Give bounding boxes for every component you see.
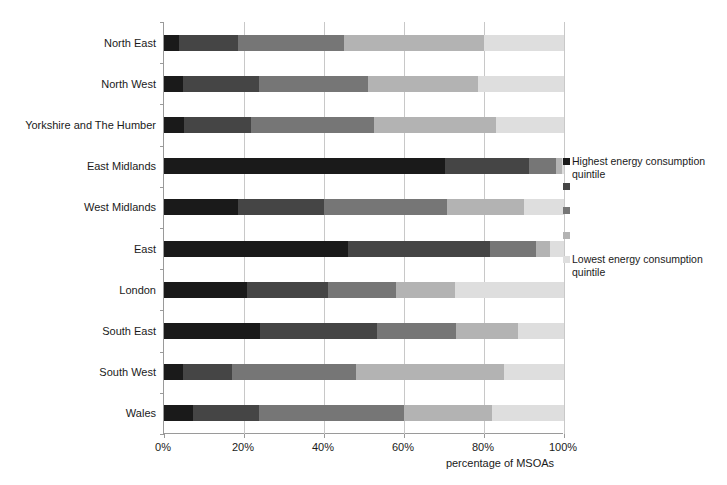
bar-segment xyxy=(328,282,396,298)
bar-segment xyxy=(164,241,348,257)
y-axis-category-label: Yorkshire and The Humber xyxy=(25,119,156,131)
bar-segment xyxy=(247,282,328,298)
bar-segment xyxy=(447,199,524,215)
bar-segment xyxy=(455,282,564,298)
bar-segment xyxy=(550,241,564,257)
y-axis-tick xyxy=(160,310,164,311)
stacked-bar-chart: North EastNorth WestYorkshire and The Hu… xyxy=(0,0,727,485)
y-axis-category-label: East xyxy=(134,243,156,255)
bar-segment xyxy=(164,282,247,298)
bar-segment xyxy=(238,35,344,51)
y-axis-tick xyxy=(160,352,164,353)
bar-segment xyxy=(377,323,456,339)
y-axis-tick xyxy=(160,63,164,64)
bar-segment xyxy=(496,117,564,133)
bar-segment xyxy=(356,364,504,380)
x-axis-tick-label: 60% xyxy=(373,441,433,453)
x-axis-tick xyxy=(484,434,485,438)
bar-segment xyxy=(164,323,260,339)
y-axis-tick xyxy=(160,434,164,435)
bar-row xyxy=(164,35,564,51)
bar-row xyxy=(164,158,564,174)
bar-segment xyxy=(478,76,564,92)
x-axis-title: percentage of MSOAs xyxy=(400,457,600,469)
x-axis-tick xyxy=(244,434,245,438)
y-axis-category-label: East Midlands xyxy=(87,160,156,172)
legend-label: Lowest energy consumption quintile xyxy=(572,253,722,278)
legend-item[interactable] xyxy=(563,204,722,214)
bar-segment xyxy=(232,364,356,380)
y-axis-tick xyxy=(160,393,164,394)
bar-segment xyxy=(183,76,259,92)
bar-segment xyxy=(164,35,179,51)
bar-row xyxy=(164,199,564,215)
x-axis-tick-label: 80% xyxy=(453,441,513,453)
bar-segment xyxy=(492,405,564,421)
y-axis-category-label: South East xyxy=(102,325,156,337)
bar-segment xyxy=(164,405,193,421)
x-axis-tick xyxy=(564,434,565,438)
y-axis-category-label: Wales xyxy=(126,407,156,419)
bar-segment xyxy=(183,364,232,380)
x-axis-tick xyxy=(164,434,165,438)
bar-segment xyxy=(490,241,536,257)
bar-row xyxy=(164,364,564,380)
bar-segment xyxy=(445,158,529,174)
bar-segment xyxy=(456,323,518,339)
y-axis-tick xyxy=(160,187,164,188)
y-axis-category-label: London xyxy=(119,284,156,296)
bar-row xyxy=(164,117,564,133)
bar-segment xyxy=(536,241,550,257)
y-axis-tick xyxy=(160,104,164,105)
legend-item[interactable]: Highest energy consumption quintile xyxy=(563,155,722,180)
bar-segment xyxy=(164,117,184,133)
bar-segment xyxy=(251,117,374,133)
y-axis-category-label: West Midlands xyxy=(84,201,156,213)
bar-row xyxy=(164,405,564,421)
bar-segment xyxy=(238,199,324,215)
bar-segment xyxy=(484,35,564,51)
legend-item[interactable]: Lowest energy consumption quintile xyxy=(563,253,722,278)
bar-segment xyxy=(164,364,183,380)
plot-area xyxy=(163,22,563,434)
bar-row xyxy=(164,76,564,92)
bar-segment xyxy=(164,199,238,215)
legend-item[interactable] xyxy=(563,229,722,239)
legend-swatch xyxy=(563,183,570,190)
x-axis-tick-label: 0% xyxy=(133,441,193,453)
legend-swatch xyxy=(563,256,570,263)
legend-swatch xyxy=(563,158,570,165)
y-axis-tick xyxy=(160,269,164,270)
bar-row xyxy=(164,323,564,339)
x-axis-tick-label: 100% xyxy=(533,441,593,453)
y-axis-tick xyxy=(160,228,164,229)
bar-segment xyxy=(184,117,251,133)
bar-segment xyxy=(504,364,564,380)
bar-segment xyxy=(164,76,183,92)
bar-segment xyxy=(344,35,484,51)
x-axis-tick xyxy=(404,434,405,438)
x-axis-tick-label: 40% xyxy=(293,441,353,453)
bar-segment xyxy=(518,323,564,339)
y-axis-category-label: South West xyxy=(99,366,156,378)
y-axis-tick xyxy=(160,22,164,23)
bar-segment xyxy=(374,117,496,133)
bar-segment xyxy=(259,76,368,92)
legend-swatch xyxy=(563,207,570,214)
y-axis-category-label: North West xyxy=(101,78,156,90)
bar-row xyxy=(164,241,564,257)
y-axis-category-label: North East xyxy=(104,37,156,49)
bar-segment xyxy=(396,282,455,298)
bar-segment xyxy=(164,158,445,174)
bar-segment xyxy=(529,158,556,174)
bar-segment xyxy=(193,405,259,421)
legend-item[interactable] xyxy=(563,180,722,190)
bar-segment xyxy=(179,35,238,51)
bar-segment xyxy=(368,76,478,92)
bar-segment xyxy=(348,241,490,257)
y-axis-tick xyxy=(160,146,164,147)
bar-row xyxy=(164,282,564,298)
bar-segment xyxy=(524,199,564,215)
bar-segment xyxy=(260,323,377,339)
x-axis-tick xyxy=(324,434,325,438)
